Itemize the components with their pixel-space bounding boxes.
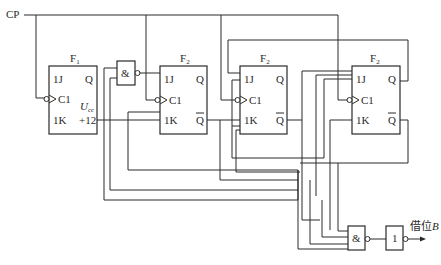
svg-text:Q: Q	[388, 114, 396, 126]
borrow-output-label: 借位B	[410, 219, 439, 232]
svg-text:Q: Q	[85, 73, 93, 85]
svg-text:Q: Q	[196, 73, 204, 85]
svg-text:F1: F1	[70, 52, 80, 66]
svg-text:Q: Q	[276, 73, 284, 85]
svg-text:&: &	[352, 232, 361, 244]
output-arrow-icon	[420, 237, 426, 242]
svg-text:1K: 1K	[164, 114, 178, 126]
circuit-diagram: CP F1 1J Q C1 1K Ucc +12 & F2	[0, 0, 441, 265]
svg-text:F2: F2	[180, 52, 190, 66]
flipflop-f1: F1 1J Q C1 1K Ucc +12	[44, 52, 97, 134]
svg-text:1J: 1J	[244, 73, 255, 85]
clock-label: CP	[6, 8, 19, 20]
svg-text:F2: F2	[260, 52, 270, 66]
svg-text:1J: 1J	[356, 73, 367, 85]
flipflop-f2a: F2 1J Q C1 1K Q	[155, 52, 207, 134]
svg-text:C1: C1	[58, 93, 71, 105]
svg-text:&: &	[121, 67, 130, 79]
nand-gate-1: &	[117, 61, 140, 85]
svg-text:1K: 1K	[53, 114, 67, 126]
flipflop-f2c: F2 1J Q C1 1K Q	[347, 52, 400, 134]
svg-text:Q: Q	[388, 73, 396, 85]
svg-text:1: 1	[392, 232, 398, 244]
circuit-svg: CP F1 1J Q C1 1K Ucc +12 & F2	[0, 0, 441, 265]
svg-text:C1: C1	[249, 94, 262, 106]
svg-text:1J: 1J	[53, 73, 64, 85]
svg-text:Q: Q	[276, 114, 284, 126]
svg-text:F2: F2	[370, 52, 380, 66]
svg-text:Q: Q	[196, 114, 204, 126]
svg-text:1J: 1J	[164, 73, 175, 85]
svg-text:1K: 1K	[244, 114, 258, 126]
svg-text:C1: C1	[361, 94, 374, 106]
flipflop-f2b: F2 1J Q C1 1K Q	[235, 52, 287, 134]
svg-text:+12: +12	[79, 114, 96, 126]
svg-text:C1: C1	[169, 94, 182, 106]
f1-clock-bubble	[44, 97, 49, 102]
nand-gate-out: &	[348, 226, 370, 250]
not-gate-out: 1	[386, 226, 408, 250]
svg-text:1K: 1K	[356, 114, 370, 126]
